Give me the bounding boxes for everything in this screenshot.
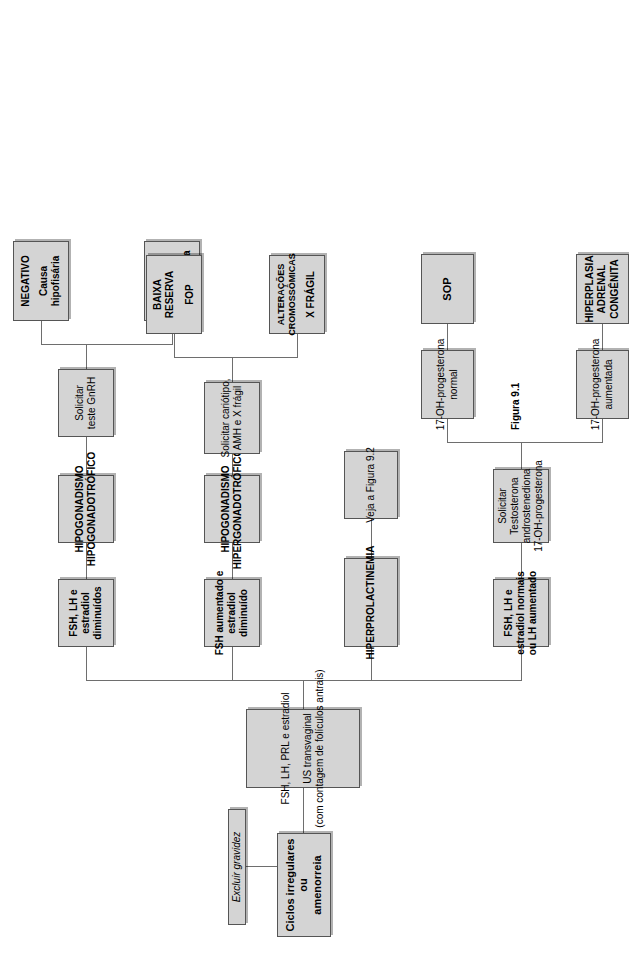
node-test-androgens-line-3: 17-OH-progesterona bbox=[533, 460, 545, 552]
node-branch-hyperprolactinemia[interactable]: HIPERPROLACTINEMIA bbox=[344, 558, 398, 647]
connector-split-to-negative bbox=[41, 321, 42, 345]
node-test-gnrh-line-0: Solicitar bbox=[74, 385, 86, 421]
node-test-karyotype-line-0: Solicitar cariótipo, bbox=[220, 379, 232, 458]
node-exclude-pregnancy-line-0: Excluir gravidez bbox=[231, 832, 243, 903]
node-dx-sop[interactable]: SOP bbox=[421, 254, 474, 324]
node-exclude-pregnancy[interactable]: Excluir gravidez bbox=[228, 809, 246, 925]
node-test-karyotype[interactable]: Solicitar cariótipo, AMH e X frágil bbox=[204, 382, 260, 454]
connector-main-trunk bbox=[86, 680, 521, 681]
node-branch-hypo-line-1: estradiol bbox=[80, 592, 92, 634]
connector-workup-to-trunk bbox=[303, 681, 304, 709]
connector-karyotype-split-vertical bbox=[174, 357, 298, 358]
node-dx-hypergonadotrophic-line-0: HIPOGONADISMO bbox=[220, 465, 232, 552]
node-branch-prolactin-line-0: HIPERPROLACTINEMIA bbox=[365, 546, 377, 660]
node-ohp-normal[interactable]: 17-OH-progesterona normal bbox=[421, 350, 474, 419]
node-test-gnrh-line-1: teste GnRH bbox=[86, 377, 98, 429]
node-dx-hypogonadotrophic-line-1: HIPOGONADOTRÓFICO bbox=[86, 452, 98, 566]
node-branch-normal-line-2: ou LH aumentado bbox=[527, 571, 539, 655]
node-branch-hyper-line-1: estradiol bbox=[226, 592, 238, 634]
connector-trunk-to-branch-hyper bbox=[232, 647, 233, 681]
connector-split-to-chromosomal bbox=[297, 334, 298, 358]
node-result-chromosomal-line-0: ALTERAÇÕES bbox=[276, 264, 287, 325]
connector-androgens-to-split bbox=[521, 443, 522, 469]
node-branch-normal-line-0: FSH, LH e bbox=[503, 589, 515, 636]
node-branch-hypergonadotrophic[interactable]: FSH aumentado e estradiol diminuído bbox=[204, 579, 260, 647]
node-test-androgens-line-2: androstenediona bbox=[521, 469, 533, 544]
connector-trunk-to-branch-hypo bbox=[86, 647, 87, 681]
node-branch-hypo-line-0: FSH, LH e bbox=[68, 589, 80, 636]
connector-androgen-split-vertical bbox=[447, 442, 603, 443]
node-test-androgens-line-0: Solicitar bbox=[497, 488, 509, 524]
node-result-low-reserve-line-2: FOP bbox=[184, 284, 196, 305]
node-result-low-reserve-line-0: BAIXA bbox=[152, 279, 164, 310]
node-start-line-2: amenorreia bbox=[311, 855, 324, 914]
node-branch-normal[interactable]: FSH, LH e estradiol normais ou LH aument… bbox=[493, 579, 549, 647]
node-result-chromosomal-line-1: CROMOSSÔMICAS bbox=[287, 253, 298, 336]
node-ohp-normal-line-0: 17-OH-progesterona bbox=[435, 339, 447, 431]
node-dx-cah-line-2: CONGÊNITA bbox=[609, 259, 621, 318]
node-gnrh-negative[interactable]: NEGATIVO Causa hipofisária bbox=[13, 241, 69, 321]
node-test-androgens-line-1: Testosterona bbox=[509, 477, 521, 534]
node-start-line-0: Ciclos irregulares bbox=[284, 839, 297, 932]
connector-split-to-low-reserve bbox=[174, 334, 175, 358]
node-dx-hypogonadotrophic-line-0: HIPOGONADISMO bbox=[74, 465, 86, 552]
node-initial-workup-line-2: (com contagem de folículos antrais) bbox=[314, 669, 326, 827]
node-branch-hypo-line-2: diminuídos bbox=[92, 586, 104, 639]
node-dx-hypergonadotrophic-line-1: HIPERGONADOTRÓFICO bbox=[232, 449, 244, 570]
node-see-figure-92[interactable]: Veja a Figura 9.2 bbox=[344, 451, 398, 519]
node-ohp-increased[interactable]: 17-OH-progesterona aumentada bbox=[576, 350, 629, 419]
node-dx-sop-line-0: SOP bbox=[441, 277, 454, 300]
figure-caption: Figura 9.1 bbox=[510, 383, 521, 430]
node-gnrh-negative-line-0: NEGATIVO bbox=[20, 255, 32, 306]
node-ohp-normal-line-1: normal bbox=[448, 369, 460, 400]
node-branch-hyper-line-0: FSH aumentado e bbox=[214, 571, 226, 655]
connector-start-to-workup bbox=[303, 788, 304, 833]
node-result-chromosomal[interactable]: ALTERAÇÕES CROMOSSÔMICAS X FRÁGIL bbox=[269, 255, 325, 334]
node-test-karyotype-line-1: AMH e X frágil bbox=[232, 386, 244, 450]
node-initial-workup-line-0: FSH, LH, PRL e estradiol bbox=[280, 693, 292, 805]
node-branch-hypogonadotrophic[interactable]: FSH, LH e estradiol diminuídos bbox=[58, 579, 114, 647]
node-initial-workup[interactable]: FSH, LH, PRL e estradiol US transvaginal… bbox=[246, 709, 360, 788]
node-initial-workup-line-1: US transvaginal bbox=[302, 713, 314, 784]
connector-karyotype-to-split bbox=[232, 358, 233, 382]
node-branch-normal-line-1: estradiol normais bbox=[515, 571, 527, 654]
node-gnrh-negative-line-2: hipofisária bbox=[50, 256, 62, 307]
node-test-androgens[interactable]: Solicitar Testosterona androstenediona 1… bbox=[493, 469, 549, 543]
node-start-line-1: ou bbox=[297, 878, 310, 891]
node-ohp-increased-line-1: aumentada bbox=[603, 359, 615, 409]
node-see-figure-92-line-0: Veja a Figura 9.2 bbox=[365, 447, 377, 523]
node-dx-cah-line-1: ADRENAL bbox=[596, 265, 608, 314]
node-result-chromosomal-line-2: X FRÁGIL bbox=[305, 271, 317, 318]
node-result-low-reserve[interactable]: BAIXA RESERVA FOP bbox=[146, 255, 202, 334]
node-branch-hyper-line-2: diminuído bbox=[238, 589, 250, 637]
node-result-low-reserve-line-1: RESERVA bbox=[164, 271, 176, 318]
node-dx-cah-line-0: HIPERPLASIA bbox=[584, 255, 596, 322]
node-ohp-increased-line-0: 17-OH-progesterona bbox=[590, 339, 602, 431]
node-gnrh-negative-line-1: Causa bbox=[38, 266, 50, 296]
node-dx-hypogonadotrophic[interactable]: HIPOGONADISMO HIPOGONADOTRÓFICO bbox=[58, 475, 114, 543]
node-dx-cah[interactable]: HIPERPLASIA ADRENAL CONGÊNITA bbox=[576, 254, 629, 324]
connector-gnrh-to-split bbox=[86, 345, 87, 369]
node-test-gnrh[interactable]: Solicitar teste GnRH bbox=[58, 369, 114, 437]
connector-gnrh-split-vertical bbox=[41, 344, 173, 345]
node-start[interactable]: Ciclos irregulares ou amenorreia bbox=[277, 833, 331, 937]
node-dx-hypergonadotrophic[interactable]: HIPOGONADISMO HIPERGONADOTRÓFICO bbox=[204, 475, 260, 543]
